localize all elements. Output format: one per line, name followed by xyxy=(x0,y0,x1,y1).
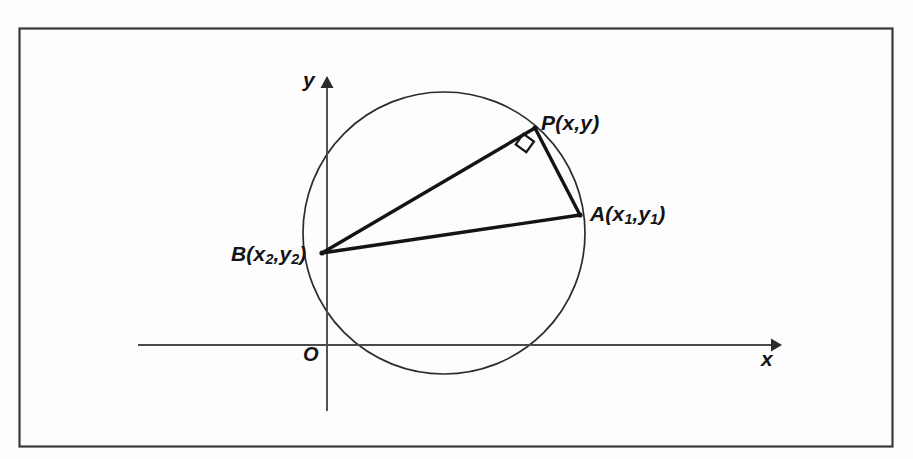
point-b-label-x: x xyxy=(254,242,266,265)
circle-shape xyxy=(303,92,585,374)
y-axis-label: y xyxy=(303,69,315,90)
figure-border xyxy=(20,29,893,447)
point-b-label-prefix: B( xyxy=(231,242,254,265)
point-b-label: B(x2,y2) xyxy=(231,243,306,266)
x-axis-label: x xyxy=(761,348,773,369)
segment-bp xyxy=(322,128,535,253)
point-p-label-y: y xyxy=(580,111,592,134)
segment-ba xyxy=(322,215,580,253)
y-axis-arrowhead xyxy=(321,76,334,88)
origin-label: O xyxy=(303,344,319,364)
point-a-label: A(x1,y1) xyxy=(590,203,665,226)
point-b-label-y: y xyxy=(279,242,291,265)
vertex-dot-b xyxy=(319,250,324,255)
point-p-label: P(x,y) xyxy=(541,112,599,133)
point-a-label-prefix: A( xyxy=(590,202,613,225)
segment-pa xyxy=(535,128,580,215)
point-b-label-suffix: ) xyxy=(299,242,306,265)
vertex-dot-a xyxy=(577,212,582,217)
point-a-label-suffix: ) xyxy=(658,202,665,225)
figure-canvas xyxy=(0,0,913,459)
point-a-label-y: y xyxy=(638,202,650,225)
point-p-label-suffix: ) xyxy=(592,111,599,134)
point-p-label-x: x xyxy=(562,111,574,134)
point-a-label-x: x xyxy=(613,202,625,225)
vertex-dot-p xyxy=(532,125,537,130)
point-p-label-prefix: P( xyxy=(541,111,562,134)
geometry-figure: y x O P(x,y) A(x1,y1) B(x2,y2) xyxy=(0,0,913,459)
